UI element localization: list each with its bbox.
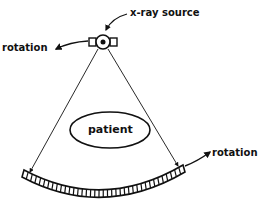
detector-array [22, 165, 185, 197]
fan-beam-left-edge [30, 49, 98, 172]
rotation-right-label: rotation [212, 148, 258, 158]
rotation-left-label: rotation [2, 43, 48, 53]
rotation-right-arrow [185, 152, 210, 166]
xray-source-label: x-ray source [130, 8, 200, 18]
patient-label: patient [88, 124, 133, 135]
xray-source-icon [89, 35, 117, 49]
ct-diagram [0, 0, 262, 207]
rotation-left-arrow [56, 41, 88, 49]
fan-beam-right-edge [108, 49, 178, 166]
source-pointer-arrow [106, 14, 127, 30]
